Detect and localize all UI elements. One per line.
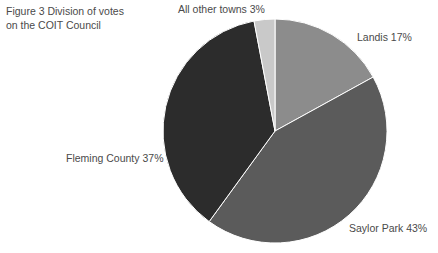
slice-label-saylor-park: Saylor Park 43% [349, 222, 427, 235]
slice-label-all-other-towns: All other towns 3% [178, 3, 265, 16]
pie-chart [162, 18, 388, 244]
slice-label-fleming-county: Fleming County 37% [66, 152, 163, 165]
slice-label-landis: Landis 17% [357, 31, 412, 44]
figure-caption: Figure 3 Division of votes on the COIT C… [6, 4, 166, 32]
pie-chart-svg [162, 18, 388, 244]
figure-container: Figure 3 Division of votes on the COIT C… [0, 0, 438, 253]
